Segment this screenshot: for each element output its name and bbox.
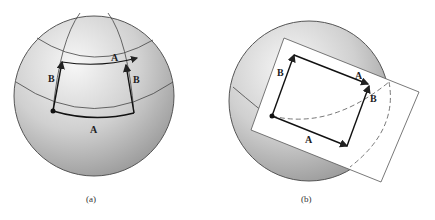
figure-a: A A B B (a) — [14, 13, 174, 204]
label-b-right-B: B — [370, 93, 377, 104]
label-b-left-B: B — [277, 67, 284, 78]
caption-b: (b) — [301, 194, 312, 204]
label-b-bottom-A: A — [305, 134, 313, 145]
diagram-canvas: A A B B (a) A A B B (b) — [0, 0, 435, 220]
label-b-top-A: A — [355, 70, 363, 81]
label-a-right-B: B — [133, 74, 140, 85]
caption-a: (a) — [86, 194, 96, 204]
label-a-left-B: B — [48, 73, 55, 84]
sphere-a — [14, 16, 174, 176]
label-a-bottom-A: A — [90, 124, 98, 135]
figure-b: A A B B (b) — [229, 21, 419, 204]
label-a-top-A: A — [111, 52, 119, 63]
